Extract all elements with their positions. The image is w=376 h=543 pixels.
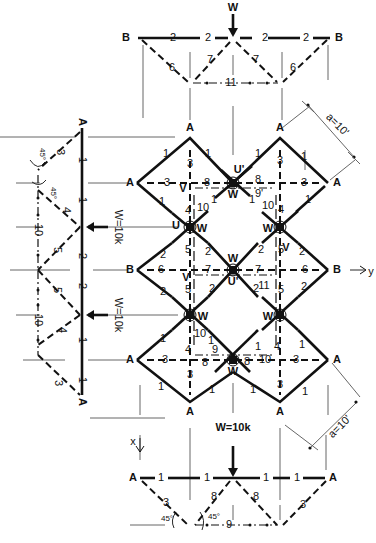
member-label: 5 <box>52 247 64 253</box>
axis-y-label: y <box>368 265 374 277</box>
member-label: 3 <box>301 176 307 188</box>
member-label: 2 <box>77 253 89 259</box>
member-label: 6 <box>158 263 164 275</box>
member-label: 3 <box>277 378 283 390</box>
member-label: 2 <box>77 283 89 289</box>
joint-label: W <box>197 222 208 234</box>
member-label: 1 <box>204 471 210 483</box>
load-label-top: W <box>228 1 239 13</box>
member-label: 5 <box>278 283 284 295</box>
member-label: 6 <box>302 263 308 275</box>
member-label: 10 <box>33 314 45 326</box>
node-b-top-left: B <box>122 31 130 43</box>
node-a-bottom-right: A <box>329 471 337 483</box>
member-label: 3 <box>53 380 65 386</box>
member-label: 3 <box>277 154 283 166</box>
x-axis: x <box>130 435 144 452</box>
node-a: A <box>276 405 284 417</box>
member-label: 3 <box>164 176 170 188</box>
member-label: 8 <box>244 355 250 367</box>
member-label: 5 <box>278 243 284 255</box>
member-label: 7 <box>253 53 259 65</box>
member-label: 5 <box>185 283 191 295</box>
node-a: A <box>186 405 194 417</box>
node-a-left-top: A <box>77 118 89 126</box>
left-view: W=10k W=10k A A 1 1 2 2 1 1 3 4 5 5 4 3 … <box>30 118 125 406</box>
node-b: B <box>333 263 341 275</box>
joint-label: W <box>198 310 209 322</box>
member-label: 1 <box>301 150 307 162</box>
member-label: 5 <box>185 243 191 255</box>
member-label: 10 <box>259 353 271 365</box>
member-label: 9 <box>226 518 232 530</box>
member-label: 6 <box>169 61 175 73</box>
member-label: 1 <box>158 380 164 392</box>
truss-diagram: W B B 2 2 2 2 6 7 7 6 11 <box>0 0 376 543</box>
member-label: 8 <box>211 490 217 502</box>
member-label: 1 <box>263 471 269 483</box>
member-label: 8 <box>253 490 259 502</box>
member-label: 3 <box>187 368 193 380</box>
joint-label: W <box>228 188 239 200</box>
member-label: 2 <box>303 31 309 43</box>
load-label-left-lower: W=10k <box>113 298 125 333</box>
member-label: 1 <box>299 338 305 350</box>
member-label: 4 <box>185 204 191 216</box>
member-label: 2 <box>205 245 211 257</box>
member-label: 2 <box>209 282 215 294</box>
member-label: 4 <box>57 327 69 333</box>
member-label: 8 <box>204 176 210 188</box>
member-label: 11 <box>225 76 236 88</box>
member-label: 2 <box>170 31 176 43</box>
member-label: 1 <box>302 385 308 397</box>
member-label: 1 <box>163 147 169 159</box>
node-b-top-right: B <box>335 31 343 43</box>
angle-label: 45° <box>161 514 173 523</box>
member-label: 1 <box>250 383 256 395</box>
member-label: 2 <box>301 280 307 292</box>
member-label: 3 <box>187 157 193 169</box>
member-label: 4 <box>61 207 73 213</box>
member-label: 1 <box>255 147 261 159</box>
dimension-label-lower: a=10' <box>325 412 352 439</box>
member-label: 10 <box>33 224 45 236</box>
member-label: 1 <box>77 197 89 203</box>
member-label: 8 <box>202 356 208 368</box>
member-label: 3 <box>55 149 67 155</box>
member-label: 1 <box>205 147 211 159</box>
member-label: 2 <box>299 245 305 257</box>
member-label: 10 <box>194 327 206 339</box>
joint-label: U' <box>228 275 239 287</box>
member-label: 7 <box>205 263 211 275</box>
member-label: 3 <box>163 496 169 508</box>
joint-label: V <box>179 182 187 194</box>
member-label: 2 <box>160 285 166 297</box>
load-label-bottom: W=10k <box>215 421 251 433</box>
member-label: 10 <box>262 199 274 211</box>
node-a: A <box>333 353 341 365</box>
angle-label: 45° <box>49 187 58 199</box>
joint-label: V <box>182 271 190 283</box>
member-label: 3 <box>293 353 299 365</box>
node-a: A <box>186 121 194 133</box>
main-grid: A A A A A A B B A A U' W U W W W W U' W … <box>126 121 374 417</box>
member-label: 4 <box>274 340 280 352</box>
member-label: 1 <box>77 337 89 343</box>
joint-label: W <box>263 310 274 322</box>
member-label: 2 <box>258 243 264 255</box>
member-label: 1 <box>294 471 300 483</box>
member-label: 1 <box>209 383 215 395</box>
top-view: W B B 2 2 2 2 6 7 7 6 11 <box>122 1 343 88</box>
member-label: 9 <box>212 343 218 355</box>
load-label-left-upper: W=10k <box>113 210 125 245</box>
member-label: 1 <box>77 157 89 163</box>
joint-label: U <box>172 219 180 231</box>
member-label: 7 <box>255 263 261 275</box>
member-label: 3 <box>162 353 168 365</box>
member-label: 5 <box>52 287 64 293</box>
member-label: 7 <box>207 53 213 65</box>
joint-label: W <box>228 252 239 264</box>
node-a: A <box>126 176 134 188</box>
axis-x-label: x <box>130 435 136 447</box>
member-label: 1 <box>159 195 165 207</box>
